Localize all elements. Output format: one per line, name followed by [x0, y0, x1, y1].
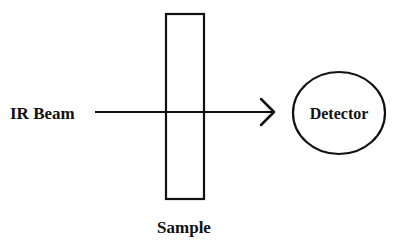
- sample-rectangle: [166, 14, 204, 199]
- detector-label: Detector: [310, 105, 369, 122]
- ir-spectroscopy-diagram: IR Beam Sample Detector: [0, 0, 395, 244]
- ir-beam-label: IR Beam: [10, 104, 75, 123]
- sample-label: Sample: [157, 218, 211, 237]
